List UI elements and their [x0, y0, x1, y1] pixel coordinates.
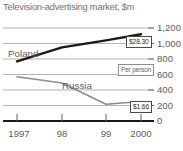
- y-tick-label-1200: 1,200: [157, 23, 181, 33]
- y-tick-label-400: 400: [157, 85, 173, 95]
- y-tick-label-800: 800: [157, 54, 173, 64]
- callout-value-russia: $1.66: [130, 101, 152, 113]
- x-tick-label-1997: 1997: [8, 128, 29, 139]
- chart-container: Television-advertising market, $m: [0, 0, 183, 151]
- y-tick-label-200: 200: [157, 101, 173, 111]
- note-per-person: Per person: [118, 64, 154, 76]
- y-tick-label-1000: 1,000: [157, 39, 181, 49]
- series-label-poland: Poland: [8, 48, 39, 59]
- x-tick-label-99: 99: [101, 128, 112, 139]
- chart-title: Television-advertising market, $m: [3, 2, 134, 13]
- callout-value-poland: $28.30: [126, 36, 152, 48]
- series-label-russia: Russia: [62, 80, 92, 91]
- x-tick-label-98: 98: [57, 128, 68, 139]
- y-tick-label-0: 0: [157, 116, 162, 126]
- x-tick-label-2000: 2000: [130, 128, 151, 139]
- x-axis-labels: 1997 98 99 2000: [0, 128, 154, 146]
- y-axis-labels: 1,200 1,000 800 600 400 200 0: [157, 26, 183, 124]
- y-tick-label-600: 600: [157, 70, 173, 80]
